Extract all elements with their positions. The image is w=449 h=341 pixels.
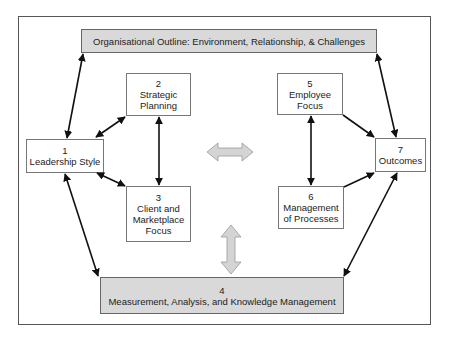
arrow-processes-outcomes [344, 173, 374, 187]
arrow-employee-outcomes [343, 115, 374, 137]
horizontal-double-block-arrow-icon [207, 143, 253, 161]
arrow-leadership-strategic [96, 117, 125, 137]
arrow-banner-leadership [67, 54, 83, 138]
arrow-leadership-client [97, 173, 125, 186]
arrow-leadership-measurement [65, 174, 98, 276]
vertical-double-block-arrow-icon [221, 225, 241, 274]
arrow-banner-outcomes [377, 54, 396, 137]
arrow-outcomes-measurement [344, 173, 397, 276]
connector-layer [0, 0, 449, 341]
